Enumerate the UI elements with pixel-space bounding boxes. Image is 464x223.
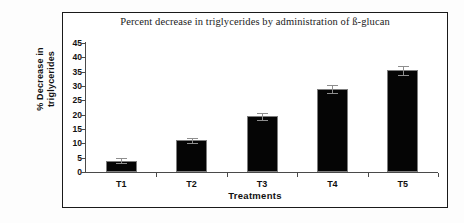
y-axis-line <box>85 42 86 173</box>
y-axis-tick-label: 0 <box>62 167 82 177</box>
bar-t5 <box>387 70 418 172</box>
chart-figure: Percent decrease in triglycerides by adm… <box>0 0 464 223</box>
chart-title: Percent decrease in triglycerides by adm… <box>66 16 444 27</box>
x-axis-tick-label-t3: T3 <box>227 179 297 189</box>
y-axis-tick-label: 45 <box>62 38 82 48</box>
x-axis-tick-mark <box>438 173 439 177</box>
y-axis-tick-label: 20 <box>62 110 82 120</box>
bar-t3 <box>247 116 278 172</box>
y-axis-tick-mark <box>81 172 85 173</box>
y-axis-tick-mark <box>81 43 85 44</box>
y-axis-title: % Decrease in triglycerides <box>35 19 57 139</box>
error-bar-cap-t1-lower <box>116 163 127 164</box>
error-bar-t5 <box>403 66 404 75</box>
y-axis-tick-label: 15 <box>62 124 82 134</box>
y-axis-tick-label: 40 <box>62 52 82 62</box>
error-bar-cap-t2-lower <box>187 143 198 144</box>
x-axis-tick-label-t5: T5 <box>368 179 438 189</box>
error-bar-cap-t4-lower <box>327 93 338 94</box>
x-axis-tick-label-t1: T1 <box>86 179 156 189</box>
y-axis-tick-mark <box>81 100 85 101</box>
error-bar-t3 <box>262 113 263 120</box>
error-bar-cap-t2-upper <box>187 138 198 139</box>
y-axis-title-line1: % Decrease in <box>35 19 46 139</box>
error-bar-cap-t1-upper <box>116 158 127 159</box>
bar-t2 <box>176 140 207 172</box>
y-axis-tick-mark <box>81 115 85 116</box>
x-axis-tick-label-t4: T4 <box>297 179 367 189</box>
bar-t4 <box>317 89 348 172</box>
error-bar-cap-t3-lower <box>257 120 268 121</box>
error-bar-cap-t5-upper <box>398 66 409 67</box>
y-axis-tick-mark <box>81 57 85 58</box>
x-axis-tick-mark <box>227 173 228 177</box>
y-axis-tick-label: 30 <box>62 81 82 91</box>
x-axis-title: Treatments <box>62 190 448 201</box>
y-axis-tick-label: 25 <box>62 95 82 105</box>
y-axis-tick-label: 5 <box>62 153 82 163</box>
error-bar-cap-t4-upper <box>327 85 338 86</box>
y-axis-tick-mark <box>81 158 85 159</box>
y-axis-tick-label: 35 <box>62 67 82 77</box>
x-axis-tick-mark <box>156 173 157 177</box>
y-axis-tick-labels: 454035302520151050 <box>62 37 82 178</box>
y-axis-tick-mark <box>81 72 85 73</box>
y-axis-tick-mark <box>81 129 85 130</box>
x-axis-tick-mark <box>368 173 369 177</box>
y-axis-tick-label: 10 <box>62 138 82 148</box>
y-axis-tick-mark <box>81 86 85 87</box>
error-bar-cap-t3-upper <box>257 113 268 114</box>
y-axis-title-line2: triglycerides <box>46 19 57 139</box>
x-axis-line <box>85 172 438 173</box>
error-bar-cap-t5-lower <box>398 75 409 76</box>
x-axis-tick-label-t2: T2 <box>157 179 227 189</box>
x-axis-tick-mark <box>297 173 298 177</box>
y-axis-tick-mark <box>81 143 85 144</box>
error-bar-t4 <box>332 85 333 94</box>
